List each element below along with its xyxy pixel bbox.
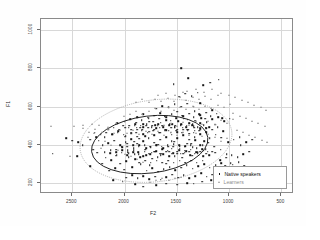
data-point-native-speaker (158, 118, 160, 120)
data-point-learner (135, 110, 137, 112)
data-point-learner (253, 104, 255, 106)
data-point-native-speaker (201, 181, 203, 183)
data-point-native-speaker (176, 153, 178, 155)
data-point-learner (168, 179, 170, 181)
data-point-native-speaker (204, 118, 206, 120)
data-point-native-speaker (165, 136, 167, 138)
data-point-native-speaker (167, 144, 169, 146)
data-point-native-speaker (217, 126, 219, 128)
data-point-learner (142, 161, 144, 163)
data-point-learner (248, 134, 250, 136)
data-point-native-speaker (195, 151, 197, 153)
data-point-native-speaker (180, 123, 182, 125)
data-point-learner (242, 131, 244, 133)
data-point-native-speaker (230, 162, 232, 164)
data-point-native-speaker (223, 121, 225, 123)
data-point-native-speaker (159, 112, 161, 114)
data-point-native-speaker (248, 151, 250, 153)
data-point-native-speaker (124, 121, 126, 123)
data-point-native-speaker (239, 136, 241, 138)
data-point-learner (148, 110, 150, 112)
data-point-native-speaker (203, 163, 205, 165)
data-point-native-speaker (209, 126, 211, 128)
legend[interactable]: Native speakers Learners (213, 166, 287, 189)
legend-item-native-speakers[interactable]: Native speakers (217, 170, 283, 179)
data-point-learner (185, 99, 187, 101)
data-point-learner (266, 141, 268, 143)
data-point-learner (82, 127, 84, 129)
data-point-native-speaker (157, 171, 159, 173)
y-tick-label: 800 (28, 63, 33, 71)
data-point-learner (160, 110, 162, 112)
data-point-native-speaker (140, 157, 142, 159)
data-point-native-speaker (125, 141, 127, 143)
data-point-learner (93, 132, 95, 134)
data-point-native-speaker (157, 156, 159, 158)
data-point-native-speaker (144, 135, 146, 137)
data-point-learner (173, 100, 175, 102)
data-point-native-speaker (216, 113, 218, 115)
y-tick-label: 400 (28, 139, 33, 147)
data-point-learner (155, 179, 157, 181)
data-point-learner (113, 132, 115, 134)
data-point-native-speaker (108, 170, 110, 172)
data-point-native-speaker (211, 151, 213, 153)
data-point-learner (260, 106, 262, 108)
legend-item-learners[interactable]: Learners (217, 178, 283, 187)
data-point-native-speaker (190, 149, 192, 151)
data-point-native-speaker (143, 156, 145, 158)
data-point-learner (160, 100, 162, 102)
data-point-native-speaker (147, 117, 149, 119)
data-point-native-speaker (171, 114, 173, 116)
data-point-native-speaker (220, 149, 222, 151)
data-point-native-speaker (167, 160, 169, 162)
data-point-native-speaker (155, 185, 157, 187)
data-point-native-speaker (173, 143, 175, 145)
data-point-learner (247, 101, 249, 103)
data-point-native-speaker (135, 132, 137, 134)
x-tick-mark (280, 193, 281, 196)
data-point-learner (204, 104, 206, 106)
data-point-native-speaker (138, 162, 140, 164)
data-point-native-speaker (167, 150, 169, 152)
data-point-native-speaker (127, 151, 129, 153)
data-point-native-speaker (123, 134, 125, 136)
data-point-native-speaker (163, 154, 165, 156)
data-point-native-speaker (229, 118, 231, 120)
data-point-native-speaker (196, 147, 198, 149)
data-point-native-speaker (123, 169, 125, 171)
data-point-native-speaker (134, 123, 136, 125)
data-point-native-speaker (113, 140, 115, 142)
data-point-native-speaker (131, 133, 133, 135)
data-point-native-speaker (153, 121, 155, 123)
data-point-native-speaker (192, 168, 194, 170)
y-tick-label: 1000 (28, 24, 33, 35)
data-point-native-speaker (211, 180, 213, 182)
data-point-learner (192, 95, 194, 97)
data-point-learner (174, 177, 176, 179)
data-point-native-speaker (186, 125, 188, 127)
data-point-native-speaker (124, 127, 126, 129)
data-point-native-speaker (148, 121, 150, 123)
data-point-native-speaker (144, 144, 146, 146)
data-point-native-speaker (131, 175, 133, 177)
data-point-learner (186, 90, 188, 92)
data-point-learner (101, 131, 103, 133)
data-point-native-speaker (188, 151, 190, 153)
data-point-learner (161, 177, 163, 179)
data-point-native-speaker (246, 141, 248, 143)
data-point-native-speaker (143, 126, 145, 128)
data-point-native-speaker (219, 159, 221, 161)
data-point-learner (201, 135, 203, 137)
data-point-native-speaker (174, 103, 176, 105)
data-point-learner (167, 106, 169, 108)
data-point-learner (210, 107, 212, 109)
data-point-native-speaker (77, 141, 79, 143)
data-point-native-speaker (152, 168, 154, 170)
filled-circle-icon (219, 173, 221, 175)
data-point-native-speaker (175, 169, 177, 171)
data-point-native-speaker (115, 151, 117, 153)
data-point-native-speaker (89, 166, 91, 168)
data-point-native-speaker (156, 160, 158, 162)
data-point-native-speaker (160, 179, 162, 181)
